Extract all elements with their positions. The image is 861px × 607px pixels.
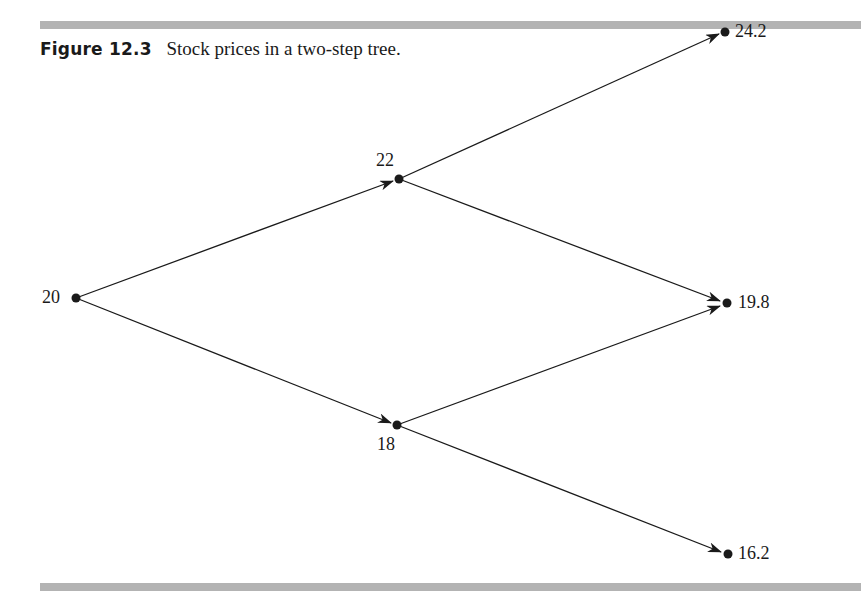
node-label-16-2: 16.2 [738,543,770,564]
node-dot-22 [395,175,404,184]
node-dot-19-8 [723,299,732,308]
node-dot-18 [393,421,402,430]
binomial-tree-diagram [0,0,861,607]
node-label-18: 18 [377,434,395,455]
node-dot-24-2 [721,28,730,37]
edge-20-to-22 [76,181,393,298]
node-label-24-2: 24.2 [735,21,767,42]
node-dot-20 [72,294,81,303]
edge-22-to-19-8 [399,179,720,301]
node-label-19-8: 19.8 [738,292,770,313]
edge-18-to-16-2 [397,425,721,552]
bottom-rule [40,583,861,591]
edge-22-to-24-2 [399,34,719,179]
edge-18-to-19-8 [397,306,720,425]
node-dot-16-2 [724,550,733,559]
node-label-20: 20 [42,287,60,308]
node-label-22: 22 [376,150,394,171]
edge-20-to-18 [76,298,391,423]
